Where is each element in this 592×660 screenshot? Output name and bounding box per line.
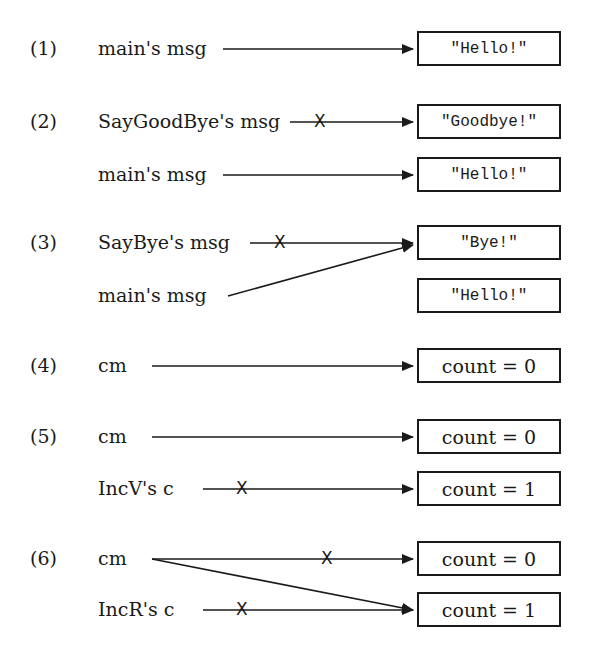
variable-label: IncV's c (98, 477, 174, 499)
step-label: (3) (30, 231, 57, 253)
variable-label: cm (98, 425, 127, 447)
value-text: count = 0 (442, 426, 536, 448)
variable-label: cm (98, 547, 127, 569)
step-label: (5) (30, 425, 57, 447)
value-text: "Hello!" (451, 287, 528, 305)
variable-label: SayBye's msg (98, 231, 230, 253)
value-box: "Hello!" (417, 278, 561, 313)
value-text: "Goodbye!" (441, 113, 537, 131)
value-text: "Hello!" (451, 40, 528, 58)
step-label: (2) (30, 110, 57, 132)
variable-label: main's msg (98, 163, 207, 185)
variable-label: main's msg (98, 37, 207, 59)
value-box: count = 0 (417, 419, 561, 454)
value-box: "Bye!" (417, 225, 561, 260)
value-box: "Goodbye!" (417, 104, 561, 139)
value-text: count = 0 (442, 548, 536, 570)
value-text: "Hello!" (451, 166, 528, 184)
variable-label: IncR's c (98, 598, 174, 620)
value-box: count = 0 (417, 348, 561, 383)
step-label: (4) (30, 354, 57, 376)
value-text: "Bye!" (460, 234, 518, 252)
arrow-cm-6-diagonal (152, 559, 413, 610)
cross-mark: X (321, 550, 333, 567)
arrow-main-msg-3 (228, 245, 413, 296)
cross-mark: X (236, 601, 248, 618)
value-box: "Hello!" (417, 31, 561, 66)
value-box: "Hello!" (417, 157, 561, 192)
value-text: count = 1 (442, 478, 536, 500)
step-label: (6) (30, 547, 57, 569)
value-box: count = 1 (417, 471, 561, 506)
value-text: count = 0 (442, 355, 536, 377)
variable-label: main's msg (98, 284, 207, 306)
variable-label: cm (98, 354, 127, 376)
step-label: (1) (30, 37, 57, 59)
variable-label: SayGoodBye's msg (98, 110, 280, 132)
value-box: count = 0 (417, 541, 561, 576)
cross-mark: X (314, 113, 326, 130)
value-box: count = 1 (417, 592, 561, 627)
value-text: count = 1 (442, 599, 536, 621)
cross-mark: X (236, 480, 248, 497)
cross-mark: X (274, 234, 286, 251)
